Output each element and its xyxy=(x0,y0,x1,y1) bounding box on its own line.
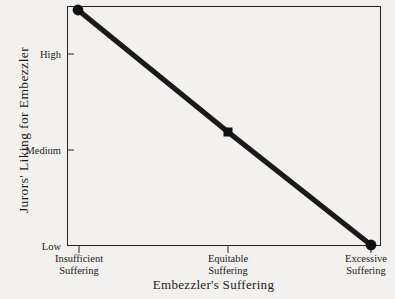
data-point-excessive xyxy=(366,240,377,251)
data-point-insufficient xyxy=(73,5,84,16)
data-series-line xyxy=(0,0,395,299)
chart-figure: Jurors' Liking for Embezzler High Medium… xyxy=(0,0,395,299)
data-point-equitable xyxy=(224,128,233,137)
